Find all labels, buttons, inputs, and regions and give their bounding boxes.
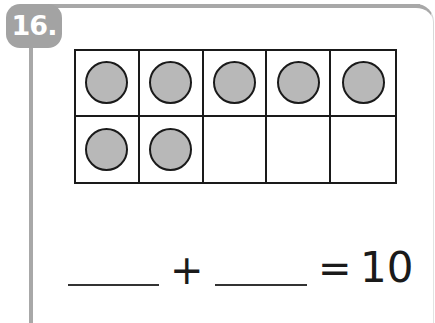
counter-circle-icon xyxy=(85,61,128,104)
problem-number-badge: 16. xyxy=(6,4,62,48)
ten-frame-cell xyxy=(140,51,204,117)
ten-frame-cell xyxy=(267,51,331,117)
card-top-border xyxy=(20,4,420,8)
card-right-border xyxy=(433,40,434,323)
ten-frame-cell xyxy=(76,51,140,117)
counter-circle-icon xyxy=(213,61,256,104)
counter-circle-icon xyxy=(342,61,385,104)
ten-frame-cell xyxy=(76,117,140,183)
equation-result: 10 xyxy=(360,248,413,288)
counter-circle-icon xyxy=(149,61,192,104)
card-left-border xyxy=(29,40,33,323)
ten-frame xyxy=(74,49,397,184)
ten-frame-cell xyxy=(331,51,395,117)
ten-frame-cell-empty xyxy=(331,117,395,183)
card-corner xyxy=(408,4,434,44)
answer-blank-2[interactable] xyxy=(215,284,307,286)
answer-blank-1[interactable] xyxy=(68,284,159,286)
plus-sign: + xyxy=(170,250,204,290)
ten-frame-cell xyxy=(140,117,204,183)
counter-circle-icon xyxy=(277,61,320,104)
ten-frame-cell xyxy=(204,51,268,117)
counter-circle-icon xyxy=(149,128,192,171)
equals-sign: = xyxy=(318,248,352,288)
ten-frame-cell-empty xyxy=(267,117,331,183)
counter-circle-icon xyxy=(85,128,128,171)
ten-frame-cell-empty xyxy=(204,117,268,183)
